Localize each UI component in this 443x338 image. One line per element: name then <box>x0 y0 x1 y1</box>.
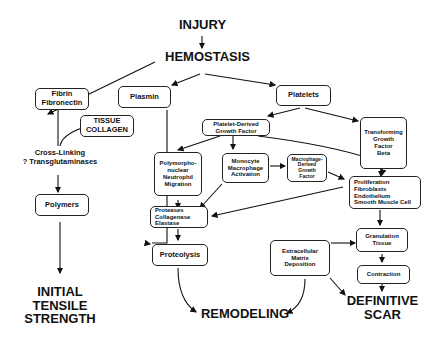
proteolysis-node: Proteolysis <box>152 244 208 266</box>
pmn-migration-node: Polymorpho- nuclear Neutrophil Migration <box>154 152 202 196</box>
pdgf-node: Platelet-Derived Growth Factor <box>202 119 270 136</box>
platelets-node: Platelets <box>276 85 331 106</box>
tissue-collagen-node: TISSUE COLLAGEN <box>80 115 134 137</box>
remodeling-label: REMODELING <box>200 307 290 321</box>
plasmin-node: Plasmin <box>118 86 171 108</box>
ecm-deposition-node: Extracellular Matrix Deposition <box>270 240 330 276</box>
monocyte-macrophage-node: Monocyte Macrophage Activation <box>222 153 269 183</box>
initial-tensile-strength-label: INITIAL TENSILE STRENGTH <box>15 285 105 326</box>
proliferation-node: Proliferation Fibroblasts Endothelium Sm… <box>349 176 421 209</box>
tgf-beta-node: Transforming Growth Factor Beta <box>360 117 407 169</box>
proteases-node: Proteases Collagenase Elastase <box>150 206 208 228</box>
definitive-scar-label: DEFINITIVE SCAR <box>340 294 425 321</box>
mdgf-node: Macrophage- Derived Growth Factor <box>287 154 327 182</box>
granulation-tissue-node: Granulation Tissue <box>356 228 408 252</box>
hemostasis-label: HEMOSTASIS <box>155 50 260 64</box>
injury-label: INJURY <box>160 18 245 32</box>
fibrin-fibronectin-node: Fibrin Fibronectin <box>35 88 89 110</box>
contraction-node: Contraction <box>357 265 410 284</box>
polymers-node: Polymers <box>35 194 89 216</box>
cross-linking-label: Cross-Linking ? Transglutaminases <box>10 148 110 166</box>
